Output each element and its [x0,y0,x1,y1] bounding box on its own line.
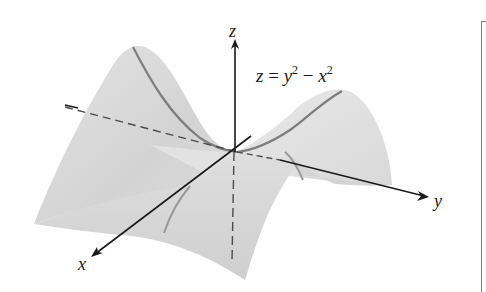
surface-equation: z = y2 − x2 [256,66,333,85]
equation-term1-var: y [284,65,292,86]
equation-lhs: z [256,65,263,86]
y-axis-arrowhead [417,191,429,201]
equation-equals: = [268,65,279,86]
equation-term2-exp: 2 [327,63,333,77]
equation-term1-exp: 2 [292,63,298,77]
figure-frame-corner [481,21,486,22]
equation-term2-var: x [318,65,326,86]
x-axis-label: x [78,255,86,273]
y-axis-label: y [434,192,442,210]
saddle-surface-figure: z y x z = y2 − x2 [0,0,486,292]
figure-frame-border [481,21,482,292]
saddle-surface-plot [0,0,486,292]
equation-minus: − [303,65,314,86]
z-axis-label: z [229,22,236,40]
